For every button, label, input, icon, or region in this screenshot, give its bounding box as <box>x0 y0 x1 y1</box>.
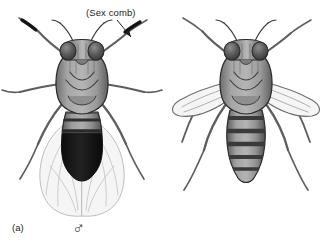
panel-label-a: (a) <box>12 222 24 233</box>
panel-male: (Sex comb) (a) ♂ <box>0 0 164 242</box>
panel-female: (b) ♀ <box>164 0 328 242</box>
sex-comb-label: (Sex comb) <box>86 7 136 18</box>
female-fly-illustration <box>164 0 328 242</box>
sex-comb-leader-line <box>0 0 164 242</box>
male-symbol: ♂ <box>72 220 85 237</box>
abdomen-female <box>222 110 270 183</box>
compound-eye-right <box>252 42 268 60</box>
compound-eye-left <box>224 42 240 60</box>
drosophila-dimorphism-figure: (Sex comb) (a) ♂ <box>0 0 328 242</box>
